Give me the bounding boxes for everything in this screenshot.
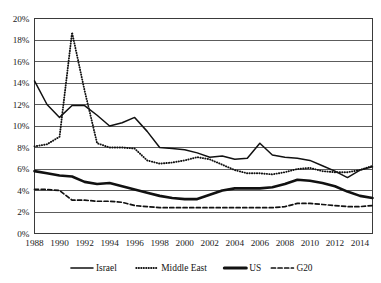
x-axis-tick-label: 1994 — [100, 238, 119, 248]
legend-label-g20: G20 — [296, 263, 312, 273]
x-axis-tick-label: 2012 — [326, 238, 345, 248]
x-axis-tick-label: 1992 — [75, 238, 94, 248]
legend-label-israel: Israel — [96, 263, 117, 273]
x-axis-tick-label: 1990 — [50, 238, 69, 248]
y-axis-tick-label: 14% — [13, 78, 30, 88]
x-axis-tick-label: 1996 — [125, 238, 144, 248]
series-line-israel — [35, 81, 373, 178]
y-axis-tick-label: 6% — [17, 164, 30, 174]
x-axis-tick-label: 2010 — [301, 238, 320, 248]
y-axis-tick-label: 12% — [13, 100, 30, 110]
line-chart: 0%2%4%6%8%10%12%14%16%18%20% 19881990199… — [0, 0, 381, 283]
y-axis-tick-label: 16% — [13, 57, 30, 67]
x-axis-tick-label: 2002 — [201, 238, 220, 248]
chart-legend: IsraelMiddle EastUSG20 — [71, 263, 313, 273]
chart-container: 0%2%4%6%8%10%12%14%16%18%20% 19881990199… — [0, 0, 381, 283]
x-axis-tick-label: 2000 — [176, 238, 195, 248]
x-axis-tick-label: 2008 — [276, 238, 295, 248]
series-line-g20 — [35, 189, 373, 207]
y-axis-tick-label: 18% — [13, 35, 30, 45]
legend-label-us: US — [249, 263, 261, 273]
x-axis-tick-labels: 1988199019921994199619982000200220042006… — [25, 238, 369, 248]
y-axis-tick-label: 10% — [13, 121, 30, 131]
x-axis-tick-label: 1988 — [25, 238, 44, 248]
grid-lines — [35, 19, 373, 234]
x-axis-tick-label: 2014 — [351, 238, 370, 248]
series-line-middle-east — [35, 32, 373, 174]
legend-label-middle-east: Middle East — [161, 263, 207, 273]
data-series-group — [35, 32, 373, 207]
x-axis-tick-label: 2004 — [226, 238, 245, 248]
x-axis-tick-label: 2006 — [251, 238, 270, 248]
y-axis-tick-label: 4% — [17, 186, 30, 196]
y-axis-tick-label: 2% — [17, 207, 30, 217]
x-axis-tick-label: 1998 — [150, 238, 169, 248]
y-axis-tick-label: 20% — [13, 14, 30, 24]
y-axis-tick-label: 8% — [17, 143, 30, 153]
series-line-us — [35, 171, 373, 199]
y-axis-tick-labels: 0%2%4%6%8%10%12%14%16%18%20% — [13, 14, 30, 239]
